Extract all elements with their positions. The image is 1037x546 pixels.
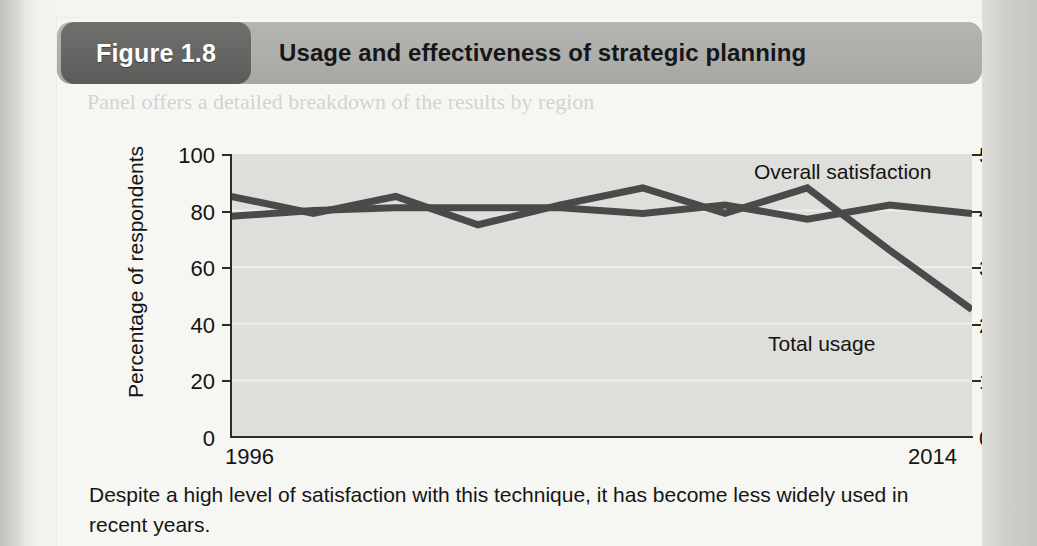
plot-svg xyxy=(231,154,972,437)
figure-number-label: Figure 1.8 xyxy=(96,39,216,68)
page-edge-shadow xyxy=(982,0,1037,546)
page-background: Figure 1.8 Usage and effectiveness of st… xyxy=(0,0,1037,546)
y-tick-label-40: 40 xyxy=(169,313,215,339)
y-axis-line xyxy=(230,154,232,437)
series-label-total-usage: Total usage xyxy=(768,332,875,356)
y-tick-label-80: 80 xyxy=(169,200,215,226)
figure-card: Figure 1.8 Usage and effectiveness of st… xyxy=(57,18,982,546)
figure-header-band: Figure 1.8 Usage and effectiveness of st… xyxy=(57,22,982,84)
y-axis-title-left: Percentage of respondents xyxy=(124,127,148,417)
series-line-overall-satisfaction xyxy=(231,205,972,219)
figure-title: Usage and effectiveness of strategic pla… xyxy=(279,22,968,84)
x-tick-label-start: 1996 xyxy=(225,444,274,470)
x-tick-label-end: 2014 xyxy=(908,444,957,470)
plot-area xyxy=(231,154,972,437)
y-tick-label-100: 100 xyxy=(169,143,215,169)
x-axis-line xyxy=(230,436,973,438)
series-label-overall-satisfaction: Overall satisfaction xyxy=(754,160,931,184)
y-tick-label-60: 60 xyxy=(169,256,215,282)
chart: Percentage of respondents 5 = Highest sa… xyxy=(57,110,982,460)
y-tick-label-0: 0 xyxy=(169,426,215,452)
figure-number-badge: Figure 1.8 xyxy=(61,22,251,84)
y-tick-label-20: 20 xyxy=(169,369,215,395)
figure-caption: Despite a high level of satisfaction wit… xyxy=(89,480,949,540)
